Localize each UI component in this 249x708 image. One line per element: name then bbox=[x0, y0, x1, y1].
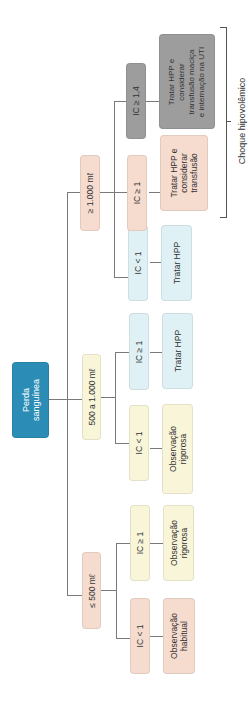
bracket-mid-tick bbox=[226, 121, 231, 122]
connector-trunk bbox=[67, 192, 68, 596]
action-label: Observação rigorosa bbox=[168, 426, 188, 472]
bracket-bottom-tick bbox=[220, 217, 227, 218]
connector-branch-a bbox=[101, 590, 117, 591]
connector-branch-c-2 bbox=[114, 192, 128, 193]
volume-label: ≤ 500 mℓ bbox=[87, 574, 97, 607]
action-label: Tratar HPP bbox=[173, 330, 183, 372]
criteria-node: IC ≥ 1,4 bbox=[126, 63, 146, 139]
bracket-vertical bbox=[226, 27, 227, 218]
action-node: Observação habitual bbox=[163, 598, 195, 674]
criteria-label: IC < 1 bbox=[133, 252, 143, 275]
action-node: Observação rigorosa bbox=[162, 404, 193, 494]
bracket-label: Choque hipovolêmico bbox=[237, 78, 247, 165]
criteria-node: IC < 1 bbox=[130, 598, 150, 674]
root-node: Perda sanguínea bbox=[12, 362, 49, 438]
connector-branch-b-1 bbox=[115, 443, 129, 444]
criteria-label: IC ≥ 1 bbox=[135, 532, 145, 555]
connector-branch-a-v bbox=[116, 543, 117, 639]
action-node: Tratar HPP bbox=[162, 313, 193, 389]
criteria-label: IC ≥ 1 bbox=[132, 182, 142, 205]
criteria-label: IC ≥ 1 bbox=[134, 340, 144, 363]
connector-act-7 bbox=[146, 101, 159, 102]
root-label: Perda sanguínea bbox=[21, 379, 41, 421]
action-node: Tratar HPP bbox=[161, 225, 192, 301]
criteria-label: IC ≥ 1,4 bbox=[131, 86, 141, 116]
connector-branch-c-v bbox=[114, 101, 115, 278]
action-label: Tratar HPP bbox=[172, 242, 182, 284]
criteria-node: IC ≥ 1 bbox=[127, 155, 147, 231]
volume-label: ≥ 1.000 mℓ bbox=[85, 173, 95, 214]
action-node: Observação rigorosa bbox=[163, 505, 194, 581]
criteria-node: IC < 1 bbox=[128, 225, 148, 301]
action-label: Tratar HPP e considerar transfusão bbox=[169, 148, 199, 197]
connector-act-1 bbox=[150, 636, 163, 637]
criteria-label: IC < 1 bbox=[134, 432, 144, 455]
bracket-top-tick bbox=[220, 27, 227, 28]
criteria-node: IC ≥ 1 bbox=[129, 313, 149, 390]
volume-node-ge1000: ≥ 1.000 mℓ bbox=[80, 155, 100, 231]
connector-branch-c-1 bbox=[114, 277, 128, 278]
connector-l1-a bbox=[67, 595, 82, 596]
volume-node-500-1000: 500 a 1.000 mℓ bbox=[82, 354, 101, 440]
connector-act-2 bbox=[150, 543, 163, 544]
connector-branch-b bbox=[101, 397, 116, 398]
action-label: Observação rigorosa bbox=[169, 520, 189, 566]
criteria-label: IC < 1 bbox=[135, 625, 145, 648]
action-node: Tratar HPP e considerar transfusão maciç… bbox=[159, 34, 215, 129]
criteria-node: IC < 1 bbox=[129, 405, 149, 481]
volume-node-le500: ≤ 500 mℓ bbox=[82, 552, 101, 629]
action-label: Observação habitual bbox=[169, 613, 189, 659]
connector-root bbox=[49, 399, 82, 400]
bracket-label-wrap: Choque hipovolêmico bbox=[234, 60, 249, 182]
action-node: Tratar HPP e considerar transfusão bbox=[160, 135, 208, 211]
action-label: Tratar HPP e considerar transfusão maciç… bbox=[167, 46, 207, 116]
connector-branch-c bbox=[100, 192, 114, 193]
connector-branch-a-1 bbox=[116, 638, 130, 639]
connector-branch-b-2 bbox=[115, 352, 129, 353]
volume-label: 500 a 1.000 mℓ bbox=[87, 368, 97, 425]
connector-branch-b-v bbox=[115, 352, 116, 444]
connector-branch-a-2 bbox=[116, 543, 130, 544]
criteria-node: IC ≥ 1 bbox=[130, 505, 150, 581]
